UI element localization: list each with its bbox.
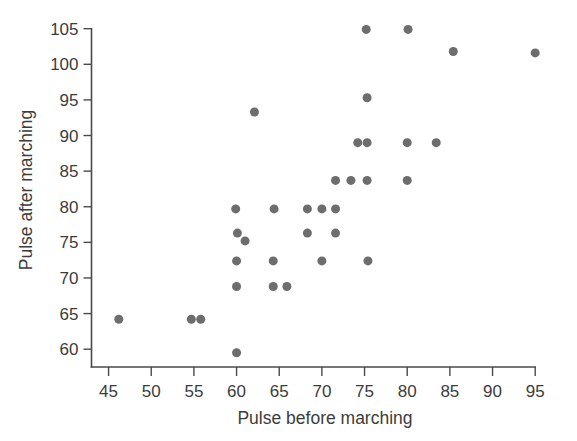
data-point (362, 25, 371, 34)
y-tick-label: 95 (60, 91, 79, 110)
x-tick-label: 95 (526, 382, 545, 401)
y-tick-label: 85 (60, 162, 79, 181)
x-tick-label: 50 (142, 382, 161, 401)
y-tick-label: 75 (60, 233, 79, 252)
data-point (114, 315, 123, 324)
data-point (241, 236, 250, 245)
data-point (363, 256, 372, 265)
data-point (449, 47, 458, 56)
data-point (363, 138, 372, 147)
scatter-plot-canvas: 6065707580859095100105 45505560657075808… (0, 0, 577, 441)
x-tick-label: 55 (184, 382, 203, 401)
data-point (331, 176, 340, 185)
x-tick-label: 70 (312, 382, 331, 401)
data-point (346, 176, 355, 185)
data-point (363, 93, 372, 102)
data-point (331, 204, 340, 213)
x-axis-title: Pulse before marching (237, 408, 412, 428)
data-point (232, 256, 241, 265)
data-point (432, 138, 441, 147)
data-point (269, 282, 278, 291)
data-point (250, 108, 259, 117)
x-tick-label: 90 (483, 382, 502, 401)
x-tick-label: 60 (227, 382, 246, 401)
y-tick-label: 60 (60, 340, 79, 359)
y-tick-label: 65 (60, 305, 79, 324)
data-point (196, 315, 205, 324)
data-point (303, 204, 312, 213)
data-point (404, 25, 413, 34)
y-tick-label: 70 (60, 269, 79, 288)
y-tick-label: 100 (50, 55, 78, 74)
x-tick-label: 65 (270, 382, 289, 401)
data-point (233, 229, 242, 238)
y-tick-label: 90 (60, 127, 79, 146)
data-point (232, 348, 241, 357)
y-tick-label: 80 (60, 198, 79, 217)
data-point (282, 282, 291, 291)
data-point (231, 204, 240, 213)
data-point (353, 138, 362, 147)
x-tick-label: 75 (355, 382, 374, 401)
x-axis-ticks: 4550556065707580859095 (99, 367, 545, 401)
data-point (317, 204, 326, 213)
y-tick-label: 105 (50, 20, 78, 39)
data-point (531, 48, 540, 57)
data-point (269, 256, 278, 265)
data-points (114, 25, 539, 357)
data-point (232, 282, 241, 291)
data-point (187, 315, 196, 324)
y-axis-ticks: 6065707580859095100105 (50, 20, 91, 360)
y-axis-title: Pulse after marching (16, 110, 36, 271)
x-tick-label: 80 (398, 382, 417, 401)
data-point (363, 176, 372, 185)
data-point (270, 204, 279, 213)
x-tick-label: 45 (99, 382, 118, 401)
data-point (403, 138, 412, 147)
data-point (331, 229, 340, 238)
x-tick-label: 85 (440, 382, 459, 401)
scatter-plot-figure: 6065707580859095100105 45505560657075808… (0, 0, 577, 441)
data-point (317, 256, 326, 265)
data-point (403, 176, 412, 185)
data-point (303, 229, 312, 238)
axes (92, 29, 536, 367)
